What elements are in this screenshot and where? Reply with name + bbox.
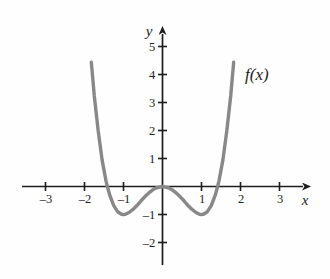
y-tick-label--1: –1 xyxy=(143,209,156,222)
y-tick-label-5: 5 xyxy=(149,41,155,54)
y-tick-label-1: 1 xyxy=(149,153,155,166)
y-tick-label-3: 3 xyxy=(149,97,155,110)
function-graph-figure: –3 –2 –1 1 2 3 5 4 3 2 1 –1 –2 y x f(x) xyxy=(0,0,330,279)
x-axis-label: x xyxy=(302,193,309,208)
x-tick-label--3: –3 xyxy=(40,193,53,206)
curve-label-fx: f(x) xyxy=(245,66,269,83)
x-tick-label--2: –2 xyxy=(79,193,92,206)
y-axis-label: y xyxy=(146,24,153,39)
x-tick-label--1: –1 xyxy=(118,193,131,206)
x-tick-label-2: 2 xyxy=(238,193,244,206)
y-tick-label--2: –2 xyxy=(143,237,156,250)
y-tick-label-4: 4 xyxy=(149,69,155,82)
x-tick-label-3: 3 xyxy=(277,193,283,206)
x-tick-label-1: 1 xyxy=(199,193,205,206)
y-tick-label-2: 2 xyxy=(149,125,155,138)
graph-canvas xyxy=(0,0,330,279)
